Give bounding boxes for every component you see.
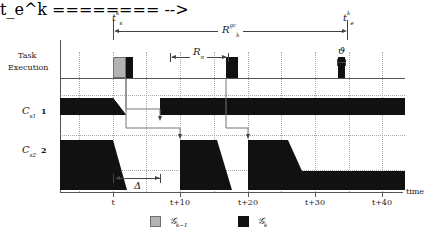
rgc-sup: gc: [230, 22, 237, 28]
rn-cap-right: [228, 53, 229, 62]
rn-arrowhead-left: [171, 55, 176, 59]
cs1-number: 1: [41, 106, 47, 116]
x-tick-label-0: t: [103, 198, 123, 207]
rgc-arrowhead-right: [342, 29, 347, 33]
x-tick-mark: [248, 192, 249, 197]
rn-sub: n: [201, 54, 205, 60]
t-end-sup: k: [347, 10, 350, 16]
legend-label-previous: 𝒢k−1: [170, 216, 187, 228]
x-tick-mark: [180, 192, 181, 197]
x-axis-label: time: [406, 188, 424, 196]
row-label-cs2: Cs22: [22, 140, 47, 159]
cs1-symbol: C: [22, 105, 30, 116]
task-block-current-3: [338, 57, 345, 78]
x-tick-label-3: t+30: [300, 198, 330, 207]
t-start-label: tks: [112, 8, 122, 27]
vartheta-measure-bar: [337, 62, 345, 63]
t-start-sub: s: [119, 20, 122, 26]
legend-sub-previous: k−1: [176, 222, 187, 228]
row-label-cs1: Cs11: [22, 101, 47, 120]
cs1-subscript: s1: [30, 113, 36, 119]
legend-swatch-current: [238, 216, 249, 227]
t-end-sub: e: [350, 20, 353, 26]
t-start-sup: k: [116, 10, 119, 16]
cs2-symbol: C: [22, 144, 30, 155]
task-block-current-1: [126, 57, 133, 78]
delta-arrowhead-right: [155, 176, 160, 180]
legend-sub-current: k: [264, 222, 267, 228]
rgc-base: R: [222, 24, 230, 35]
vartheta-cap-right: [345, 59, 346, 66]
delta-arrowhead-left: [115, 176, 120, 180]
x-tick-label-1: t+10: [165, 198, 195, 207]
legend: 𝒢k−1 𝒢k: [0, 210, 428, 238]
x-tick-mark: [315, 192, 316, 197]
cs2-number: 2: [41, 145, 47, 155]
x-tick-label-2: t+20: [233, 198, 263, 207]
delta-cap-right: [160, 174, 161, 183]
legend-swatch-previous: [150, 216, 161, 227]
t-end-label: tke: [343, 8, 354, 27]
rn-base: R: [193, 46, 201, 57]
rgc-arrowhead-left: [114, 29, 119, 33]
x-tick-label-4: t+40: [367, 198, 397, 207]
cs2-subscript: s2: [30, 152, 36, 158]
delta-cap-left: [113, 174, 114, 183]
legend-label-current: 𝒢k: [258, 216, 267, 228]
vartheta-cap-left: [337, 59, 338, 66]
delta-label: Δ: [132, 181, 143, 191]
rn-label: Rn: [190, 42, 207, 61]
x-tick-mark: [382, 192, 383, 197]
cs2-trigger-connector-2: [60, 78, 405, 150]
delta-measure-bar: [116, 178, 160, 179]
row-label-task-line1: Task: [18, 52, 36, 60]
task-block-previous: [113, 57, 126, 78]
rn-arrowhead-right: [222, 55, 227, 59]
rgc-sub: k: [236, 32, 239, 38]
rgc-label: Rgck: [218, 20, 243, 39]
row-label-task-line2: Execution: [8, 64, 48, 72]
cs2-trigger-arrowhead-2: [246, 134, 250, 139]
vartheta-label: ϑ: [338, 46, 345, 56]
x-tick-mark: [113, 192, 114, 197]
timing-diagram-figure: Task Execution Cs11 Cs22 t_e^k =====: [0, 0, 428, 241]
